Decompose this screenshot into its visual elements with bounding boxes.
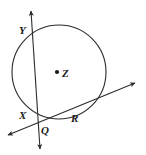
secant-line-q-r bbox=[8, 83, 135, 135]
point-label-x: X bbox=[19, 110, 26, 121]
point-label-r: R bbox=[71, 113, 78, 124]
geometry-diagram: Y Z X R Q bbox=[0, 0, 146, 155]
point-label-q: Q bbox=[41, 125, 49, 136]
point-label-z: Z bbox=[62, 68, 69, 79]
center-point-z-dot bbox=[55, 70, 59, 74]
point-label-y: Y bbox=[19, 25, 26, 36]
